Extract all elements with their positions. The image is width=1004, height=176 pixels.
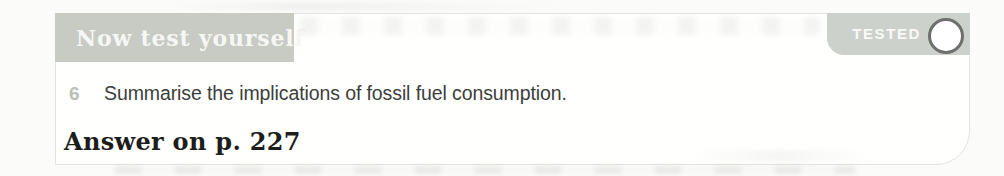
panel-header: Now test yourself bbox=[55, 13, 294, 62]
question-number: 6 bbox=[69, 83, 104, 105]
question-row: 6 Summarise the implications of fossil f… bbox=[69, 82, 949, 105]
answer-reference: Answer on p. 227 bbox=[64, 127, 301, 156]
scan-showthrough-artifact bbox=[115, 166, 855, 174]
scan-showthrough-artifact bbox=[170, 3, 570, 10]
panel-header-label: Now test yourself bbox=[76, 25, 305, 51]
tested-badge-label: TESTED bbox=[852, 25, 921, 42]
tested-check-circle[interactable] bbox=[928, 18, 964, 54]
now-test-yourself-panel: Now test yourself TESTED 6 Summarise the… bbox=[55, 13, 970, 165]
question-text: Summarise the implications of fossil fue… bbox=[104, 82, 567, 105]
tested-badge: TESTED bbox=[827, 13, 970, 55]
